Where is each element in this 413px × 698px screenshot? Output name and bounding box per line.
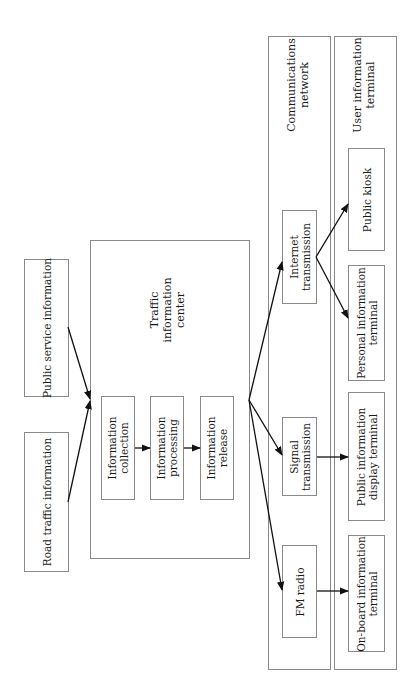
info-processing-label: Information processing <box>155 416 179 479</box>
info-collection-label: Information collection <box>106 416 130 479</box>
road-traffic-info-label: Road traffic information <box>41 438 53 566</box>
fm-radio-label: FM radio <box>294 567 306 616</box>
arrow-road-traffic-to-center <box>68 401 90 502</box>
label-line: On-board information <box>355 536 367 652</box>
public-service-info-label: Public service information <box>41 258 53 398</box>
public-info-display-terminal-box: Public information display terminal <box>348 392 385 521</box>
label-line: transmission <box>300 422 312 490</box>
label-line: Signal <box>288 422 300 490</box>
title-line: User information <box>351 35 364 135</box>
title-line: Communications <box>285 35 298 135</box>
public-info-display-terminal-label: Public information display terminal <box>355 407 379 506</box>
label-line: Information <box>155 416 167 479</box>
title-line: terminal <box>364 35 377 135</box>
title-line: Traffic <box>148 260 161 360</box>
title-line: information <box>161 260 174 360</box>
onboard-info-terminal-box: On-board information terminal <box>348 535 385 652</box>
signal-transmission-box: Signal transmission <box>282 417 317 496</box>
label-line: terminal <box>367 536 379 652</box>
label-line: display terminal <box>367 407 379 506</box>
public-kiosk-box: Public kiosk <box>348 148 385 251</box>
communications-network-title: Communications network <box>285 35 315 135</box>
label-line: Information <box>205 416 217 479</box>
info-processing-box: Information processing <box>150 396 184 500</box>
label-line: Personal information <box>355 267 367 378</box>
label-line: terminal <box>367 267 379 378</box>
info-collection-box: Information collection <box>101 396 135 500</box>
fm-radio-box: FM radio <box>282 545 317 638</box>
personal-info-terminal-label: Personal information terminal <box>355 267 379 378</box>
road-traffic-info-box: Road traffic information <box>24 432 69 572</box>
onboard-info-terminal-label: On-board information terminal <box>355 536 379 652</box>
title-line: network <box>298 35 311 135</box>
label-line: transmission <box>300 223 312 291</box>
internet-transmission-box: Internet transmission <box>282 210 317 304</box>
label-line: release <box>217 416 229 479</box>
internet-transmission-label: Internet transmission <box>288 223 312 291</box>
info-release-label: Information release <box>205 416 229 479</box>
personal-info-terminal-box: Personal information terminal <box>348 265 385 381</box>
label-line: Information <box>106 416 118 479</box>
arrow-public-service-to-center <box>68 327 90 399</box>
info-release-box: Information release <box>200 396 234 500</box>
user-info-terminal-title: User information terminal <box>351 35 381 135</box>
public-kiosk-label: Public kiosk <box>361 167 373 231</box>
public-service-info-box: Public service information <box>24 259 69 397</box>
label-line: Public information <box>355 407 367 506</box>
label-line: Internet <box>288 223 300 291</box>
label-line: collection <box>118 416 130 479</box>
title-line: center <box>174 260 187 360</box>
label-line: processing <box>167 416 179 479</box>
traffic-info-center-title: Traffic information center <box>148 260 188 360</box>
signal-transmission-label: Signal transmission <box>288 422 312 490</box>
